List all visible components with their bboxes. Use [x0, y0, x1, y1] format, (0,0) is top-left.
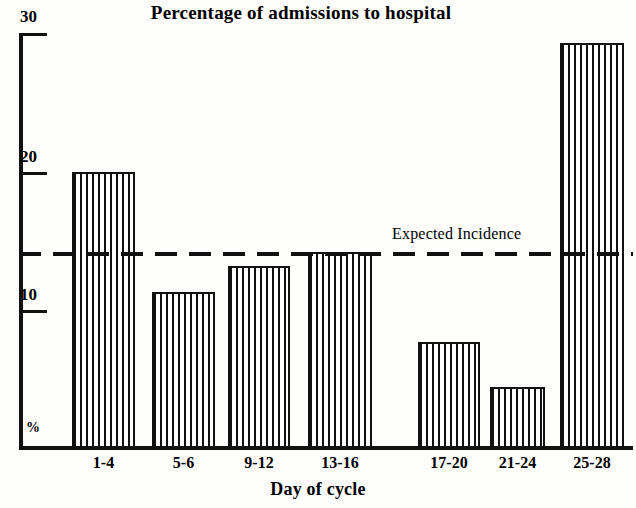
- x-axis-title: Day of cycle: [0, 479, 636, 500]
- x-tick-label-1-4: 1-4: [59, 454, 149, 472]
- x-tick-label-13-16: 13-16: [295, 454, 385, 472]
- x-axis-tick-labels: 1-45-69-1213-1617-2021-2425-28: [0, 0, 636, 508]
- x-tick-label-9-12: 9-12: [214, 454, 304, 472]
- chart-figure: Percentage of admissions to hospital 30 …: [0, 0, 636, 508]
- x-tick-label-25-28: 25-28: [547, 454, 636, 472]
